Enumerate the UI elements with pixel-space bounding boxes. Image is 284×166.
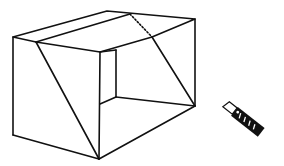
- figure-canvas: [0, 0, 284, 166]
- inner-back-top: [100, 50, 116, 52]
- right-diagonal-cut: [152, 37, 195, 106]
- box-bottom-right-edge: [99, 106, 195, 159]
- box-front-edge: [99, 52, 100, 159]
- cut-box: [13, 11, 195, 159]
- inner-front-bottom: [100, 97, 116, 104]
- dotted-cut-line: [130, 14, 152, 37]
- box-bottom-left-edge: [13, 135, 99, 159]
- inner-floor-edge: [116, 97, 195, 106]
- knife-handle: [231, 107, 265, 137]
- left-diagonal-cut: [36, 42, 99, 159]
- utility-knife: [222, 100, 265, 137]
- box-top-outline: [13, 11, 195, 52]
